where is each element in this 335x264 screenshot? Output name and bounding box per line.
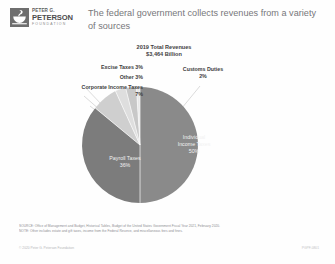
slice-label-individual-line-1: Individual [163,134,225,141]
infographic-page: PETER G. PETERSON FOUNDATION The federal… [0,0,335,264]
slice-label-individual-line-3: 50% [163,148,225,155]
footnotes: SOURCE: Office of Management and Budget,… [19,224,319,233]
chart-subtitle: 2019 Total Revenues $3,464 Billion [108,44,220,59]
slice-label-customs-duties: Customs Duties 2% [172,66,234,80]
slice-label-individual-income-taxes: Individual Income Taxes 50% [163,134,225,156]
slice-label-payroll-line-1: Payroll Taxes [94,155,156,162]
footer-row: © 2020 Peter G. Peterson Foundation PGPF… [19,246,319,250]
slice-label-corporate-line-1: Corporate Income Taxes [30,84,143,91]
figure-code: PGPF-0801 [302,246,319,250]
slice-label-payroll-taxes: Payroll Taxes 36% [94,155,156,169]
brand-wordmark: PETER G. PETERSON FOUNDATION [32,9,73,26]
footnote-note: NOTE: Other includes estate and gift tax… [19,229,319,234]
brand-line-3: FOUNDATION [32,23,73,27]
chart-subtitle-line-1: 2019 Total Revenues [108,44,220,51]
slice-label-excise-taxes: Excise Taxes 3% [55,64,143,71]
brand-line-2: PETERSON [32,14,73,22]
copyright-text: © 2020 Peter G. Peterson Foundation [19,246,74,250]
page-header: PETER G. PETERSON FOUNDATION The federal… [0,0,335,38]
slice-label-customs-line-1: Customs Duties [172,66,234,73]
page-title: The federal government collects revenues… [88,7,326,32]
brand-logo: PETER G. PETERSON FOUNDATION [10,8,73,27]
chart-subtitle-line-2: $3,464 Billion [108,51,220,58]
slice-label-payroll-line-2: 36% [94,162,156,169]
slice-label-corporate-line-2: 7% [30,91,143,98]
peterson-foundation-bowl-icon [10,8,29,27]
slice-label-customs-line-2: 2% [172,73,234,80]
slice-label-individual-line-2: Income Taxes [163,141,225,148]
slice-label-corporate-income-taxes: Corporate Income Taxes 7% [30,84,143,98]
slice-label-other: Other 3% [55,74,143,81]
